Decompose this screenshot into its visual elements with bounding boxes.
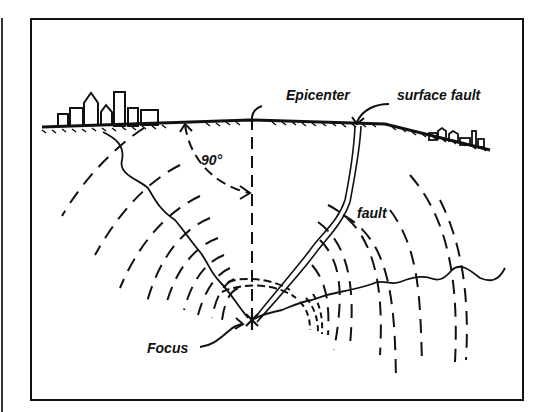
- diagram-frame: [31, 19, 523, 400]
- focus-label: Focus: [147, 340, 188, 356]
- seismic-ray-paths: [103, 132, 505, 320]
- buildings-right: [429, 128, 484, 147]
- surface-fault-label: surface fault: [397, 87, 482, 103]
- fault-label: fault: [357, 205, 388, 221]
- angle-label: 90°: [201, 152, 223, 168]
- fault-line: [253, 126, 361, 322]
- city-skyline-left: [58, 92, 158, 126]
- epicenter-label: Epicenter: [286, 87, 351, 103]
- epicenter-arrow: [252, 106, 262, 119]
- focus-point: [246, 312, 258, 330]
- earthquake-diagram: 90° Epicenter surface fault fault: [0, 0, 540, 412]
